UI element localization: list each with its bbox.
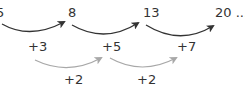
arrow-term-2-to-3 <box>72 23 138 34</box>
first-difference-1: +3 <box>28 40 47 53</box>
sequence-term-4: 20 ... <box>215 6 245 19</box>
sequence-term-1: 5 <box>0 6 4 19</box>
second-difference-1: +2 <box>64 73 83 86</box>
second-difference-2: +2 <box>137 73 156 86</box>
sequence-term-3: 13 <box>143 6 160 19</box>
first-difference-3: +7 <box>177 40 196 53</box>
first-difference-2: +5 <box>102 40 121 53</box>
arrow-term-3-to-4 <box>146 25 213 36</box>
sequence-term-2: 8 <box>68 6 76 19</box>
arrow-diff-1-to-2 <box>35 58 101 68</box>
arrow-diff-2-to-3 <box>110 58 176 67</box>
arrow-term-1-to-2 <box>2 22 64 32</box>
